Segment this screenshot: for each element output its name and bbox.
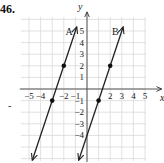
y-tick-label: 5	[80, 26, 85, 36]
point-b	[96, 98, 101, 103]
y-tick-label: −4	[74, 130, 84, 140]
x-tick-label: 3	[120, 91, 125, 101]
label-line-b: B	[112, 26, 119, 37]
line-b	[79, 28, 123, 160]
y-tick-label: −1	[74, 96, 84, 106]
point-b	[108, 64, 113, 69]
coordinate-plane: xy −5−4−2−1234554321−1−2−3−4 AB	[0, 0, 164, 163]
axes: xy	[20, 1, 164, 162]
x-tick-label: −5	[24, 91, 34, 101]
y-tick-label: 1	[80, 72, 85, 82]
x-tick-label: 2	[108, 91, 113, 101]
x-tick-label: 4	[131, 91, 136, 101]
x-tick-label: −2	[59, 91, 69, 101]
point-a	[50, 98, 55, 103]
tick-labels: −5−4−2−1234554321−1−2−3−4	[24, 26, 148, 140]
y-tick-label: 2	[80, 61, 85, 71]
x-axis-label: x	[159, 92, 164, 103]
x-tick-label: 5	[143, 91, 148, 101]
y-tick-label: 4	[80, 38, 85, 48]
y-tick-label: 3	[80, 49, 85, 59]
y-tick-label: −3	[74, 119, 84, 129]
y-tick-label: −2	[74, 107, 84, 117]
y-axis-label: y	[77, 1, 83, 12]
point-a	[62, 64, 67, 69]
x-tick-label: −4	[36, 91, 46, 101]
label-line-a: A	[66, 26, 74, 37]
